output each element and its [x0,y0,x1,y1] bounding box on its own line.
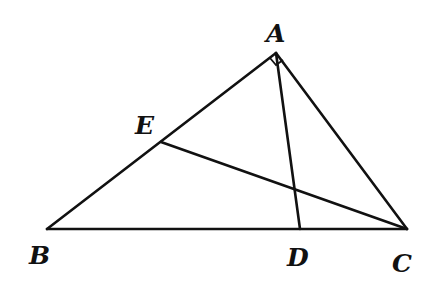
label-B: B [28,241,50,270]
segment-CE [161,142,407,229]
triangle-diagram: A B C D E [0,0,436,292]
label-D: D [286,243,309,272]
label-C: C [392,249,412,278]
label-E: E [134,111,155,140]
label-A: A [264,19,285,48]
